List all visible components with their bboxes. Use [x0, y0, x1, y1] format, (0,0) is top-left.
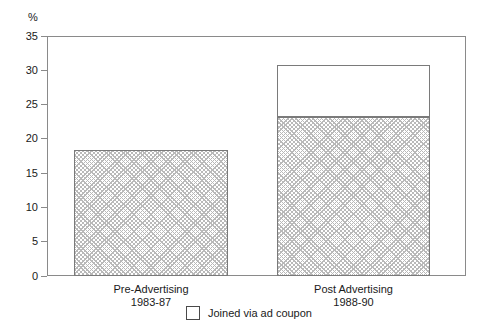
- y-axis-tick: [41, 241, 47, 242]
- y-axis-tick: [41, 207, 47, 208]
- x-axis-category-line1: Post Advertising: [314, 283, 393, 295]
- bar-segment: [277, 65, 430, 116]
- y-axis-tick: [41, 138, 47, 139]
- legend-label-joined-via-ad-coupon: Joined via ad coupon: [208, 307, 312, 320]
- y-axis-tick-label: 10: [2, 202, 38, 213]
- chart-legend: Joined via ad coupon: [186, 306, 312, 320]
- y-axis-tick-label: 15: [2, 168, 38, 179]
- y-axis-tick: [41, 70, 47, 71]
- bar-segment: [277, 117, 430, 276]
- bar-segment: [74, 150, 228, 276]
- y-axis-tick-label: 0: [2, 271, 38, 282]
- y-axis-tick-label-wrap: 15: [0, 168, 38, 179]
- y-axis-tick-label-wrap: 5: [0, 236, 38, 247]
- y-axis-tick-label-wrap: 35: [0, 31, 38, 42]
- y-axis-tick: [41, 36, 47, 37]
- legend-swatch-joined-via-ad-coupon: [186, 306, 200, 320]
- y-axis-tick-label: 5: [2, 236, 38, 247]
- x-axis-category-line1: Pre-Advertising: [113, 283, 188, 295]
- y-axis-tick-label-wrap: 25: [0, 99, 38, 110]
- y-axis-tick: [41, 104, 47, 105]
- y-axis-tick-label: 20: [2, 133, 38, 144]
- y-axis-tick-label-wrap: 20: [0, 133, 38, 144]
- y-axis-tick-label-wrap: 30: [0, 65, 38, 76]
- y-axis-tick-label-wrap: 10: [0, 202, 38, 213]
- bar-chart: % 05101520253035 Pre-Advertising1983-87P…: [0, 0, 483, 330]
- y-axis-tick: [41, 276, 47, 277]
- y-axis-tick-label: 30: [2, 65, 38, 76]
- y-axis-tick-label: 35: [2, 31, 38, 42]
- y-axis-tick-label: 25: [2, 99, 38, 110]
- y-axis-unit-label: %: [28, 11, 38, 23]
- y-axis-tick-label-wrap: 0: [0, 271, 38, 282]
- y-axis-tick: [41, 173, 47, 174]
